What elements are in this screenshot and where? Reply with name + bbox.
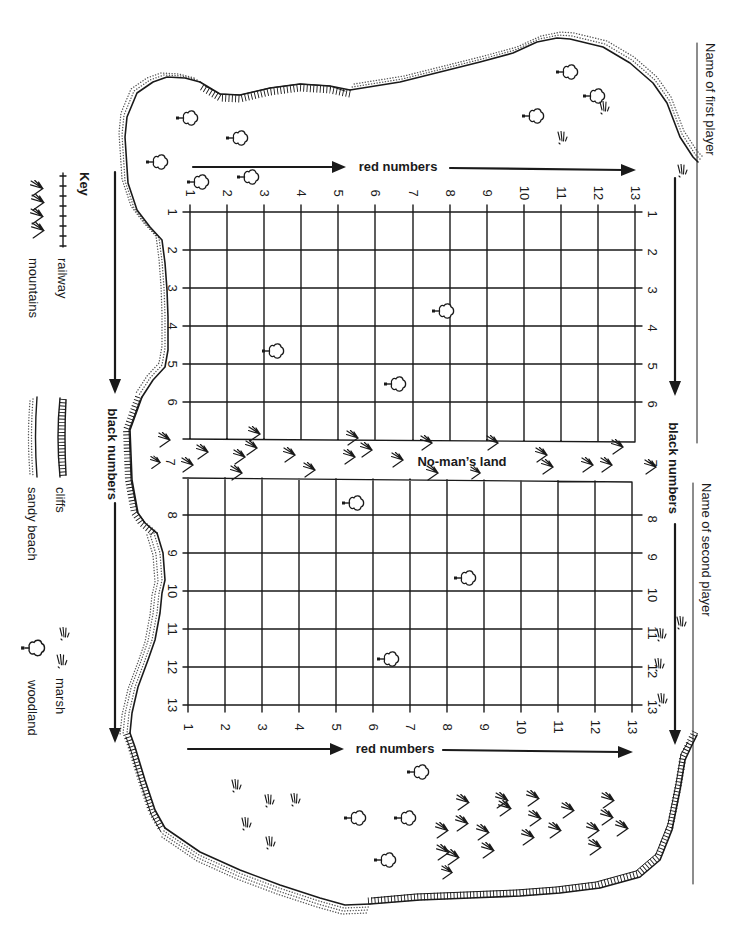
arrow-line	[450, 168, 624, 170]
mountain-icon	[589, 840, 601, 855]
red-numbers-axis-top: red numbers	[193, 159, 636, 176]
column-label: 3	[257, 189, 272, 196]
mountain-icon	[616, 821, 628, 836]
black-numbers-axis-right: black numbers	[666, 178, 682, 745]
woodland-icon	[556, 65, 578, 79]
no-mans-land-label: No-man’s land	[417, 454, 506, 469]
column-label: 13	[628, 186, 643, 200]
column-label: 12	[591, 186, 606, 200]
mountain-icon	[421, 436, 433, 451]
railway-icon	[60, 173, 66, 247]
row-label: 7	[163, 458, 178, 465]
woodland-icon	[226, 131, 248, 145]
marsh-icon	[678, 164, 687, 177]
marsh-icon	[57, 627, 69, 668]
red-numbers-label-bottom: red numbers	[356, 741, 435, 756]
black-numbers-label-right: black numbers	[666, 422, 681, 514]
mountain-icon	[482, 843, 494, 858]
mountain-icon	[601, 810, 613, 825]
sandy-beach-bottom	[162, 828, 370, 914]
mountain-icon	[284, 448, 296, 463]
row-labels-left: 1 2 3 4 5 6 7 8 9 10 11 12 13	[163, 208, 180, 712]
column-label: 2	[218, 723, 233, 730]
woodland-icon	[21, 640, 44, 655]
cliffs-left-bottom	[126, 733, 165, 832]
key-label-woodland: woodland	[25, 679, 40, 736]
woodland-icon	[377, 652, 399, 666]
row-label: 6	[165, 398, 180, 405]
grid-top-half	[183, 205, 642, 442]
sandy-beach-left-lower	[120, 533, 165, 735]
row-label: 5	[645, 362, 660, 369]
row-label: 4	[645, 324, 660, 331]
row-label: 13	[645, 700, 660, 714]
woodland-icon	[262, 344, 284, 358]
mountain-icon	[582, 458, 594, 473]
woodland-icon	[237, 170, 259, 184]
mountain-icon	[542, 460, 554, 475]
row-label: 11	[165, 622, 180, 636]
woodland-icon	[432, 304, 454, 318]
column-label: 6	[366, 723, 381, 730]
mountain-icon	[197, 445, 209, 460]
column-label: 4	[292, 723, 307, 730]
second-player-name-label: Name of second player	[699, 483, 714, 617]
mountain-icon	[587, 823, 599, 838]
mountain-icon	[344, 450, 356, 465]
mountain-icon	[456, 816, 468, 831]
row-label: 2	[645, 248, 660, 255]
second-player-name-field[interactable]: Name of second player	[693, 483, 714, 884]
row-label: 12	[165, 660, 180, 674]
mountain-icon	[522, 830, 534, 845]
column-label: 2	[220, 189, 235, 196]
arrow-down-icon	[109, 728, 121, 743]
arrow-down-icon	[109, 379, 121, 394]
column-label: 13	[625, 720, 640, 734]
marsh-icon	[242, 817, 251, 830]
row-label: 13	[165, 698, 180, 712]
key-label-mountains: mountains	[26, 258, 41, 318]
column-label: 5	[329, 723, 344, 730]
marsh-icon	[677, 616, 686, 629]
marsh-icon	[266, 836, 275, 849]
row-label: 9	[645, 553, 660, 560]
sandy-beach-icon	[29, 397, 38, 477]
row-label: 4	[165, 322, 180, 329]
row-label: 2	[165, 246, 180, 253]
mountain-icon	[246, 441, 258, 456]
woodland-icon	[176, 111, 198, 125]
red-numbers-label-top: red numbers	[359, 159, 438, 174]
marsh-icon	[265, 794, 274, 807]
mountain-icon	[549, 823, 561, 838]
black-numbers-axis-left: black numbers	[105, 172, 122, 743]
column-label: 10	[514, 720, 529, 734]
first-player-name-label: Name of first player	[703, 43, 718, 156]
map-key: Key railway mountains cliffs sandy beach	[21, 172, 91, 736]
marsh-icon	[600, 101, 609, 114]
woodland-icon	[522, 109, 544, 123]
woodland-icon	[187, 175, 209, 189]
column-label: 8	[440, 723, 455, 730]
mountain-icon	[150, 456, 160, 468]
column-label: 3	[255, 723, 270, 730]
cliffs-top	[200, 82, 350, 99]
column-label: 11	[554, 186, 569, 200]
key-label-marsh: marsh	[53, 678, 68, 714]
column-label: 4	[294, 189, 309, 196]
row-label: 1	[645, 210, 660, 217]
key-title: Key	[77, 172, 92, 197]
column-label: 9	[480, 189, 495, 196]
black-numbers-label-left: black numbers	[105, 408, 120, 500]
row-label: 10	[645, 588, 660, 602]
woodland-icon	[342, 496, 364, 510]
column-label: 1	[181, 723, 196, 730]
woodland-icon	[146, 155, 168, 169]
marsh-icon	[558, 131, 567, 144]
red-numbers-axis-bottom: red numbers	[188, 741, 633, 758]
marsh-areas	[232, 101, 687, 849]
row-label: 1	[165, 208, 180, 215]
sandy-beach-top-right	[350, 32, 702, 162]
first-player-name-field[interactable]: Name of first player	[697, 43, 718, 443]
mountain-icon	[527, 791, 539, 806]
woodland-icon	[583, 89, 605, 103]
